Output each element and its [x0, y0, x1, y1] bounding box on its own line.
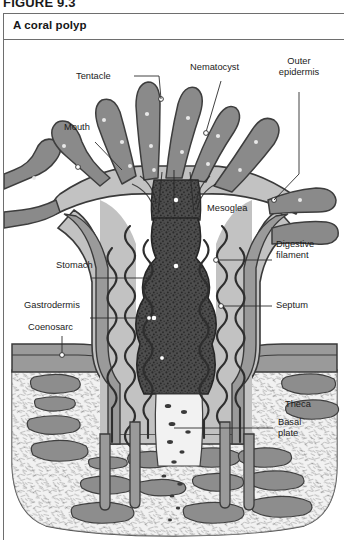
label-basal-plate-line1: Basal	[278, 417, 301, 427]
label-digestive-filament-line1: Digestive	[276, 239, 314, 249]
label-digestive-filament: Digestive filament	[276, 239, 314, 260]
label-outer-epidermis-line2: epidermis	[279, 67, 319, 77]
label-digestive-filament-line2: filament	[276, 250, 309, 260]
label-tentacle: Tentacle	[76, 71, 111, 82]
label-coenosarc: Coenosarc	[28, 322, 73, 333]
mouth-marker-dot	[174, 198, 178, 202]
label-theca: Theca	[285, 399, 311, 410]
label-mouth: Mouth	[64, 122, 90, 133]
coral-polyp-diagram	[4, 14, 344, 540]
coenosarc-anchor-dot	[60, 353, 65, 358]
nematocyst-anchor-dot	[204, 131, 209, 136]
label-basal-plate: Basal plate	[278, 417, 301, 438]
label-basal-plate-line2: plate	[278, 428, 298, 438]
label-septum: Septum	[276, 300, 308, 311]
label-stomach: Stomach	[56, 260, 93, 271]
label-mesoglea: Mesoglea	[207, 203, 247, 214]
label-gastrodermis: Gastrodermis	[24, 300, 80, 311]
label-outer-epidermis: Outer epidermis	[275, 56, 323, 77]
stomach-cavity	[136, 218, 216, 394]
figure-number: FIGURE 9.3	[3, 0, 76, 10]
tentacle-lower-left	[4, 200, 60, 228]
tentacle-far-left	[4, 139, 61, 189]
label-outer-epidermis-line1: Outer	[287, 56, 310, 66]
label-nematocyst: Nematocyst	[190, 62, 239, 73]
figure-frame: A coral polyp	[3, 13, 344, 540]
